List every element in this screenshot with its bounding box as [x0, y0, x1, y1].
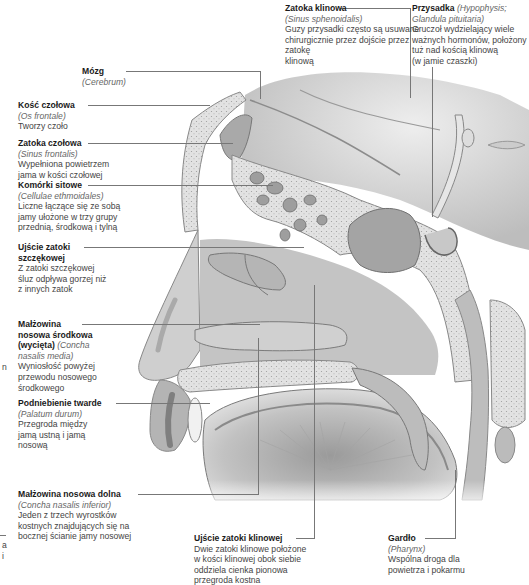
label-komorki-sitowe: Komórki sitowe (Cellulae ethmoidales) Li… [18, 180, 120, 233]
leader-przysadka [432, 67, 433, 217]
edge-fragment-bottom: a i [2, 540, 7, 561]
label-zatoka-czolowa: Zatoka czołowa (Sinus frontalis) Wypełni… [18, 138, 109, 180]
label-malzowina-srodkowa: Małżowina nosowa środkowa (wycięta) (Con… [18, 319, 100, 393]
label-kosc-czolowa: Kość czołowa (Os frontale) Tworzy czoło [18, 100, 75, 132]
leader-podniebienie [116, 403, 210, 404]
leader-ujscie-szczekowej [84, 247, 304, 248]
leader-mozg-vertical [260, 71, 261, 99]
inferior-concha [195, 322, 347, 351]
leader-malzowina-dolna-vertical [258, 338, 259, 495]
leader-malzowina-srodkowa [82, 324, 260, 325]
incisor-tooth [188, 398, 202, 442]
label-malzowina-dolna: Małżowina nosowa dolna (Concha nasalis i… [18, 489, 131, 542]
label-gardlo: Gardło (Pharynx) Wspólna droga dla powie… [388, 533, 465, 575]
edge-fragment-mid: n [2, 362, 7, 373]
label-przysadka: Przysadka (Hypophysis; Glandula pituitar… [412, 3, 529, 67]
external-nose [139, 230, 200, 380]
label-podniebienie-twarde: Podniebienie twarde (Palatum durum) Prze… [18, 398, 102, 451]
label-ujscie-zatoki-szczekowej: Ujście zatoki szczękowej Z zatoki szczęk… [18, 242, 106, 295]
leader-gardlo-vertical [455, 470, 456, 539]
label-ujscie-zatoki-klinowej: Ujście zatoki klinowej Dwie zatoki klino… [194, 533, 306, 585]
leader-mozg [126, 71, 261, 72]
label-mozg: Mózg (Cerebrum) [82, 66, 126, 87]
leader-zatoka-czolowa [88, 143, 233, 144]
cervical-vertebrae [490, 300, 525, 463]
leader-ujscie-klinowej-vertical [314, 285, 315, 539]
leader-malzowina-dolna [138, 494, 259, 495]
edge-fragment-line [0, 535, 6, 536]
label-title: Przysadka [412, 3, 455, 13]
leader-kosc-czolowa [88, 105, 210, 106]
sphenoid-sinus [348, 208, 420, 272]
